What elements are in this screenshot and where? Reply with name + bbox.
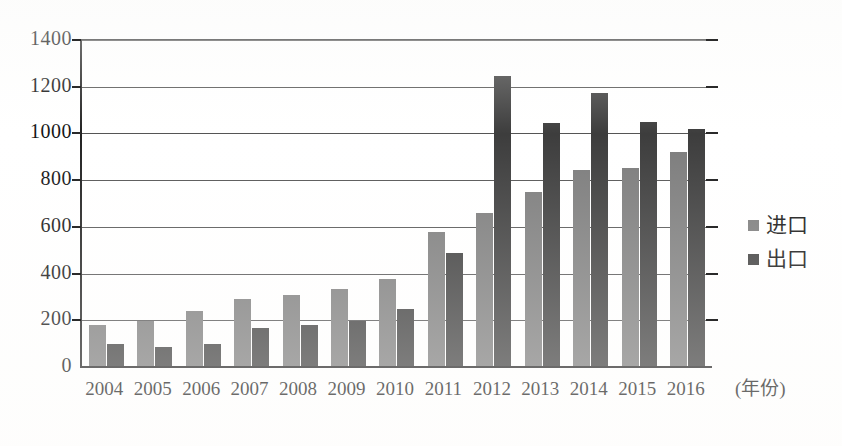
y-axis-tick-right	[706, 132, 718, 134]
bar-export	[640, 122, 657, 367]
y-axis-tick-left	[72, 319, 81, 321]
y-axis-tick-left	[72, 273, 81, 275]
bar-group	[567, 40, 615, 367]
bar-import	[428, 232, 445, 367]
y-axis-tick-label: 800	[14, 168, 72, 188]
bar-export	[494, 76, 511, 367]
bar-group	[421, 40, 469, 367]
bar-group	[324, 40, 372, 367]
bar-group	[615, 40, 663, 367]
y-axis-tick-left	[72, 179, 81, 181]
legend-item-export[interactable]: 出口	[748, 242, 838, 276]
bar-export	[543, 123, 560, 367]
y-axis-tick-right	[706, 39, 718, 41]
bar-import	[573, 170, 590, 367]
bar-import	[283, 295, 300, 367]
x-axis-line	[80, 366, 712, 368]
bar-export	[688, 129, 705, 367]
y-axis-tick-left	[72, 39, 81, 41]
bar-import	[234, 299, 251, 367]
bar-group	[179, 40, 227, 367]
y-axis-tick-left	[72, 86, 81, 88]
bar-import	[89, 325, 106, 367]
bar-import	[137, 321, 154, 367]
y-axis-tick-label: 200	[14, 308, 72, 328]
bar-group	[373, 40, 421, 367]
plot-area	[80, 39, 712, 367]
bar-export	[155, 347, 172, 367]
chart-legend: 进口出口	[748, 208, 838, 276]
bar-group	[664, 40, 712, 367]
bar-export	[107, 344, 124, 367]
y-axis-tick-right	[706, 179, 718, 181]
bar-export	[301, 325, 318, 367]
y-axis-tick-label: 1400	[14, 28, 72, 48]
bar-import	[670, 152, 687, 367]
x-axis-tick-label: 2016	[656, 377, 716, 401]
y-axis-tick-right	[706, 319, 718, 321]
legend-label: 进口	[766, 215, 808, 236]
bar-import	[476, 213, 493, 367]
bar-export	[252, 328, 269, 367]
legend-swatch-icon	[748, 254, 759, 265]
x-axis-title: (年份)	[735, 377, 786, 401]
y-axis-tick-label: 400	[14, 262, 72, 282]
bar-chart: 0200400600800100012001400 20042005200620…	[0, 0, 842, 446]
y-axis-tick-label: 1000	[14, 121, 72, 141]
bar-group	[518, 40, 566, 367]
y-axis-tick-right	[706, 86, 718, 88]
bar-export	[591, 93, 608, 367]
bar-import	[622, 168, 639, 367]
bar-export	[397, 309, 414, 367]
bar-group	[130, 40, 178, 367]
y-axis-tick-left	[72, 226, 81, 228]
y-axis-tick-left	[72, 132, 81, 134]
legend-label: 出口	[766, 249, 808, 270]
bar-export	[204, 344, 221, 367]
bar-group	[227, 40, 275, 367]
y-axis-labels: 0200400600800100012001400	[8, 0, 72, 446]
legend-swatch-icon	[748, 220, 759, 231]
bar-group	[82, 40, 130, 367]
bar-group	[470, 40, 518, 367]
x-axis-labels: 2004200520062007200820092010201120122013…	[80, 377, 710, 403]
bar-import	[379, 279, 396, 367]
y-axis-tick-label: 600	[14, 215, 72, 235]
bar-export	[349, 321, 366, 367]
y-axis-tick-right	[706, 273, 718, 275]
bar-import	[186, 311, 203, 367]
bar-group	[276, 40, 324, 367]
y-axis-tick-right	[706, 226, 718, 228]
y-axis-tick-label: 0	[14, 355, 72, 375]
bar-import	[331, 289, 348, 367]
legend-item-import[interactable]: 进口	[748, 208, 838, 242]
y-axis-tick-label: 1200	[14, 75, 72, 95]
bar-export	[446, 253, 463, 367]
bar-import	[525, 192, 542, 367]
